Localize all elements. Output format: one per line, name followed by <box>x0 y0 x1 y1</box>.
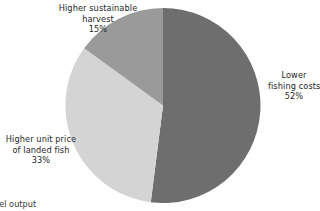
slice-label-higher-unit-price: Higher unit price of landed fish 33% <box>0 134 84 166</box>
slice-label-lower-fishing-costs: Lower fishing costs 52% <box>268 70 320 102</box>
figure-caption: odel output <box>0 199 36 209</box>
slice-label-line-1: Higher unit price <box>0 134 84 145</box>
pie-chart-figure: Higher sustainable harvest 15% Lower fis… <box>0 0 320 211</box>
slice-percent: 52% <box>268 91 320 102</box>
pie-slice-lower-fishing-costs <box>151 8 261 203</box>
slice-label-line-1: Lower <box>268 70 320 81</box>
slice-label-higher-sustainable-harvest: Higher sustainable harvest 15% <box>46 3 150 35</box>
slice-label-line-2: fishing costs <box>268 81 320 92</box>
pie-slices <box>65 8 260 203</box>
slice-label-line-1: Higher sustainable <box>46 3 150 14</box>
slice-percent: 33% <box>0 155 84 166</box>
slice-label-line-2: of landed fish <box>0 145 84 156</box>
slice-label-line-2: harvest <box>46 14 150 25</box>
slice-percent: 15% <box>46 24 150 35</box>
